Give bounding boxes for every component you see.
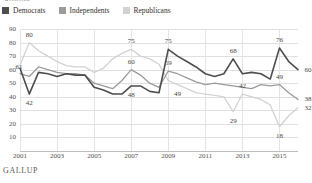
legend-label-independents: Independents <box>70 7 110 15</box>
point-label-republicans-80-0: 80 <box>26 31 33 38</box>
point-label-republicans-49-8: 49 <box>174 90 181 97</box>
point-label-independents-49-13: 49 <box>276 73 283 80</box>
y-tick-30: 30 <box>9 107 16 114</box>
point-label-republicans-42-10: 42 <box>239 83 246 90</box>
point-label-democrats-42-2: 42 <box>26 100 33 107</box>
point-label-democrats-68-9: 68 <box>230 47 237 54</box>
y-tick-70: 70 <box>9 53 16 60</box>
point-label-republicans-32-17: 32 <box>305 104 312 111</box>
y-tick-80: 80 <box>9 39 16 46</box>
chart-legend: Democrats Independents Republicans <box>2 7 184 15</box>
y-tick-20: 20 <box>9 120 16 127</box>
point-label-independents-38-16: 38 <box>305 96 312 103</box>
point-label-democrats-61-1: 61 <box>16 64 23 71</box>
x-tick-2013: 2013 <box>235 153 249 160</box>
point-label-independents-60-4: 60 <box>128 58 135 65</box>
point-label-democrats-48-5: 48 <box>128 91 135 98</box>
x-axis-labels: 20012003200520072009201120132015 <box>20 153 298 165</box>
line-independents <box>20 67 298 100</box>
legend-swatch-republicans <box>123 7 130 14</box>
legend-item-democrats: Democrats <box>2 7 46 15</box>
plot-area: 806142756048755949684229764918603832 <box>20 29 298 151</box>
point-label-republicans-18-14: 18 <box>276 132 283 139</box>
legend-item-republicans: Republicans <box>123 7 171 15</box>
legend-label-republicans: Republicans <box>134 7 171 15</box>
y-axis-labels: 102030405060708090 <box>0 29 18 151</box>
series-lines <box>20 29 298 151</box>
y-tick-40: 40 <box>9 93 16 100</box>
legend-label-democrats: Democrats <box>13 7 46 15</box>
x-tick-2007: 2007 <box>124 153 138 160</box>
point-label-republicans-75-3: 75 <box>128 38 135 45</box>
source-attribution: GALLUP <box>3 166 38 175</box>
chart-title-partial: Approve <box>4 0 30 1</box>
chart-container: Approve Democrats Independents Republica… <box>0 0 312 183</box>
legend-swatch-independents <box>59 7 66 14</box>
x-tick-2003: 2003 <box>50 153 64 160</box>
x-tick-2015: 2015 <box>272 153 286 160</box>
y-tick-90: 90 <box>9 26 16 33</box>
x-tick-2001: 2001 <box>13 153 27 160</box>
x-tick-2009: 2009 <box>161 153 175 160</box>
point-label-democrats-60-15: 60 <box>305 66 312 73</box>
y-tick-10: 10 <box>9 134 16 141</box>
y-tick-50: 50 <box>9 80 16 87</box>
legend-swatch-democrats <box>2 7 9 14</box>
point-label-independents-59-7: 59 <box>165 60 172 67</box>
point-label-democrats-75-6: 75 <box>165 38 172 45</box>
point-label-democrats-76-12: 76 <box>276 36 283 43</box>
line-republicans <box>20 43 298 127</box>
x-tick-2005: 2005 <box>87 153 101 160</box>
legend-item-independents: Independents <box>59 7 110 15</box>
x-tick-2011: 2011 <box>198 153 212 160</box>
point-label-republicans-29-11: 29 <box>230 117 237 124</box>
